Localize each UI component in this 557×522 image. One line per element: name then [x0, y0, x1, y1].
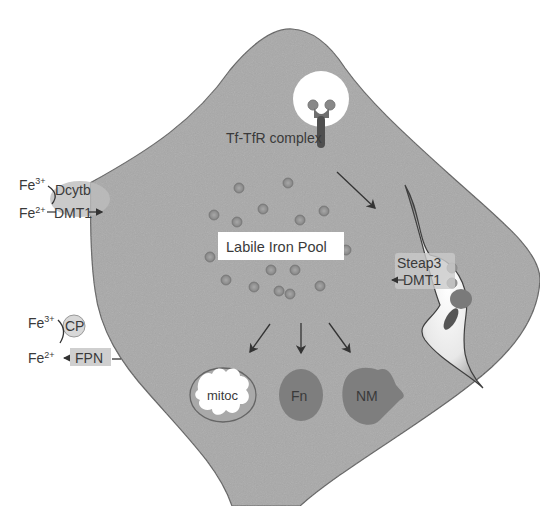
endosome-dmt1-label: DMT1 [403, 272, 441, 288]
cp-label: CP [65, 318, 84, 334]
neuromelanin-label: NM [356, 388, 378, 404]
uptake-fe2: Fe2+ [19, 205, 46, 221]
steap3-label: Steap3 [397, 255, 442, 271]
labile-iron-pool-label: Labile Iron Pool [226, 239, 327, 255]
uptake-fe3: Fe3+ [19, 176, 46, 193]
iron-metabolism-diagram: Tf-TfR complex Steap3 DMT1 Labile Iron P… [0, 0, 557, 522]
tf-tfr-label: Tf-TfR complex [226, 130, 322, 146]
ferritin-label: Fn [291, 388, 307, 404]
export-fe2: Fe2+ [28, 350, 55, 366]
cp-oxidation-curve [58, 320, 64, 343]
uptake-dmt1-label: DMT1 [54, 205, 92, 221]
fpn-label: FPN [75, 350, 103, 366]
dcytb-label: Dcytb [55, 182, 91, 198]
mitochondria-label: mitoc [207, 388, 239, 403]
export-fe3: Fe3+ [28, 314, 55, 331]
